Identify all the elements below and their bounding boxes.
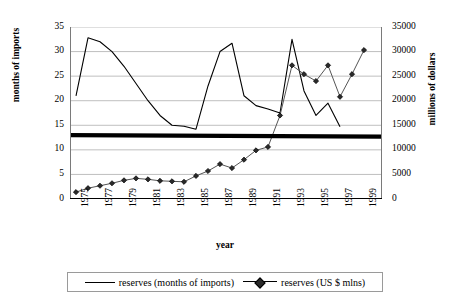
y-tick-left-30: 30 xyxy=(30,46,64,55)
y-tick-left-5: 5 xyxy=(30,169,64,178)
x-tick-label-1987: 1987 xyxy=(224,188,234,207)
y-tick-left-10: 10 xyxy=(30,144,64,153)
x-tick-label-1999: 1999 xyxy=(368,188,378,207)
legend-item-usd: reserves (US $ mlns) xyxy=(243,277,365,288)
legend-line-icon xyxy=(85,282,115,283)
x-tick-label-1993: 1993 xyxy=(296,188,306,207)
x-tick-label-1977: 1977 xyxy=(104,188,114,207)
y-tick-left-35: 35 xyxy=(30,22,64,31)
y-axis-label-left: months of imports xyxy=(11,5,21,125)
y-tick-right-5000: 5000 xyxy=(392,169,436,178)
y-tick-left-25: 25 xyxy=(30,71,64,80)
x-tick-label-1995: 1995 xyxy=(320,188,330,207)
y-axis-label-right: millions of dollars xyxy=(427,24,437,154)
x-tick-label-1979: 1979 xyxy=(128,188,138,207)
x-tick-label-1989: 1989 xyxy=(248,188,258,207)
x-tick-label-1997: 1997 xyxy=(344,188,354,207)
x-axis-label: year xyxy=(150,240,300,250)
y-tick-left-0: 0 xyxy=(30,194,64,203)
legend-item-months: reserves (months of imports) xyxy=(85,277,234,288)
x-tick-label-1981: 1981 xyxy=(152,188,162,207)
y-tick-left-15: 15 xyxy=(30,120,64,129)
legend-label-months: reserves (months of imports) xyxy=(119,277,234,288)
plot-area xyxy=(70,27,382,199)
x-tick-label-1991: 1991 xyxy=(272,188,282,207)
chart-container: months of imports 35 30 25 20 15 10 5 0 … xyxy=(0,0,450,296)
y-tick-left-20: 20 xyxy=(30,95,64,104)
legend-diamond-icon xyxy=(243,278,277,286)
chart-legend: reserves (months of imports) reserves (U… xyxy=(67,272,383,292)
y-tick-right-0: 0 xyxy=(392,194,436,203)
x-tick-label-1983: 1983 xyxy=(176,188,186,207)
legend-label-usd: reserves (US $ mlns) xyxy=(281,277,365,288)
x-tick-label-1985: 1985 xyxy=(200,188,210,207)
plot-svg xyxy=(70,27,382,199)
x-tick-label-1975: 1975 xyxy=(80,188,90,207)
